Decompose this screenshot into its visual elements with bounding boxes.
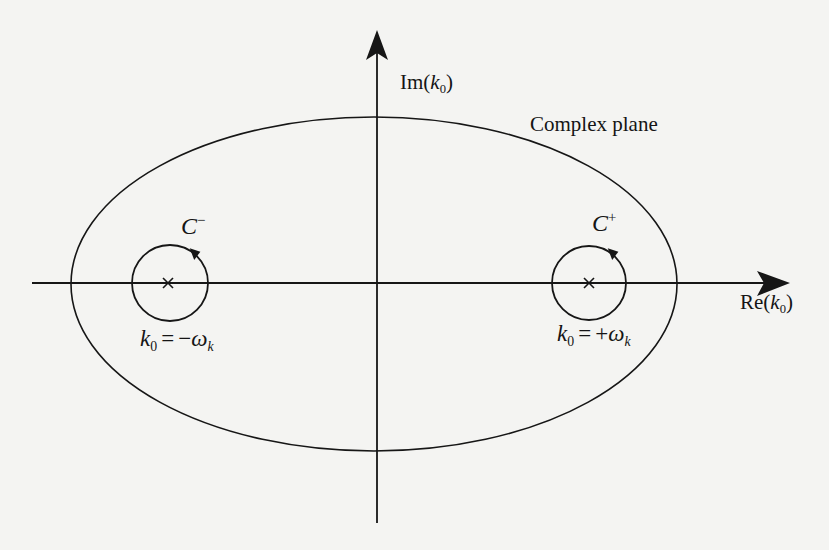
pole-minus-rhs-sub: k — [208, 339, 214, 354]
c-minus-sup: − — [197, 212, 205, 228]
diagram-title: Complex plane — [530, 114, 658, 135]
im-label-suffix: ) — [446, 70, 453, 94]
pole-minus-eq: = — [157, 326, 178, 351]
pole-plus-rhs-var: ω — [608, 321, 624, 346]
pole-plus-lhs-var: k — [557, 321, 567, 346]
pole-plus-rhs-sub: k — [625, 334, 631, 349]
pole-plus-eq: = — [574, 321, 595, 346]
outer-ellipse-contour — [71, 117, 677, 451]
re-label-prefix: Re( — [740, 290, 770, 314]
complex-plane-diagram: Im(k0) Complex plane Re(k0) C− C+ k0=−ωk… — [0, 0, 829, 550]
pole-plus-label: k0=+ωk — [557, 322, 631, 349]
pole-minus-sign: − — [178, 326, 191, 351]
c-minus-name: C — [181, 213, 197, 239]
c-plus-sup: + — [608, 209, 616, 225]
pole-plus-sign: + — [595, 321, 608, 346]
pole-minus-lhs-var: k — [140, 326, 150, 351]
real-axis-label: Re(k0) — [740, 292, 793, 316]
pole-minus-label: k0=−ωk — [140, 327, 214, 354]
c-plus-name: C — [592, 210, 608, 236]
im-label-var: k — [430, 70, 439, 94]
imaginary-axis-label: Im(k0) — [400, 72, 453, 96]
pole-minus-rhs-var: ω — [191, 326, 207, 351]
contour-c-minus-label: C− — [181, 213, 205, 238]
re-label-var: k — [770, 290, 779, 314]
re-label-suffix: ) — [786, 290, 793, 314]
contour-c-plus-label: C+ — [592, 210, 616, 235]
im-label-prefix: Im( — [400, 70, 430, 94]
